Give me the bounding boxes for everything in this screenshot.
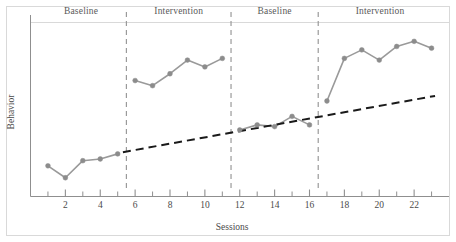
x-tick-label-4: 4 [88, 200, 112, 210]
data-point [377, 58, 382, 63]
data-point [133, 78, 138, 83]
data-point [220, 56, 225, 61]
x-axis-ticks [48, 190, 432, 197]
data-series-markers [46, 39, 434, 180]
single-case-design-chart: Baseline Intervention Baseline Intervent… [0, 0, 456, 242]
data-point [255, 122, 260, 127]
data-point [150, 83, 155, 88]
phase-label-intervention-2: Intervention [330, 6, 430, 16]
data-point [80, 158, 85, 163]
data-point [429, 46, 434, 51]
data-point [359, 47, 364, 52]
data-point [290, 114, 295, 119]
series-line-0 [48, 154, 118, 178]
data-series-lines [48, 41, 432, 177]
data-point [342, 56, 347, 61]
data-point [115, 151, 120, 156]
series-line-3 [327, 41, 432, 101]
x-tick-label-14: 14 [263, 200, 287, 210]
trend-line-segment [123, 96, 435, 152]
phase-divider-lines [126, 12, 318, 192]
x-tick-label-22: 22 [402, 200, 426, 210]
data-point [185, 58, 190, 63]
phase-label-intervention-1: Intervention [129, 6, 229, 16]
data-point [46, 163, 51, 168]
data-point [412, 39, 417, 44]
trend-line [123, 96, 435, 152]
data-point [325, 99, 330, 104]
data-point [237, 128, 242, 133]
data-point [63, 175, 68, 180]
x-tick-label-18: 18 [332, 200, 356, 210]
data-point [307, 122, 312, 127]
x-tick-label-6: 6 [123, 200, 147, 210]
data-point [394, 44, 399, 49]
x-tick-label-8: 8 [158, 200, 182, 210]
y-axis-title: Behavior [6, 87, 16, 137]
x-tick-label-10: 10 [193, 200, 217, 210]
phase-label-baseline-2: Baseline [225, 6, 325, 16]
data-point [272, 124, 277, 129]
phase-label-baseline-1: Baseline [31, 6, 131, 16]
x-tick-label-20: 20 [367, 200, 391, 210]
series-line-1 [135, 58, 222, 85]
x-tick-label-16: 16 [298, 200, 322, 210]
x-tick-label-2: 2 [53, 200, 77, 210]
data-point [168, 71, 173, 76]
data-point [202, 65, 207, 70]
data-point [98, 157, 103, 162]
x-axis-title: Sessions [216, 222, 249, 232]
x-tick-label-12: 12 [228, 200, 252, 210]
